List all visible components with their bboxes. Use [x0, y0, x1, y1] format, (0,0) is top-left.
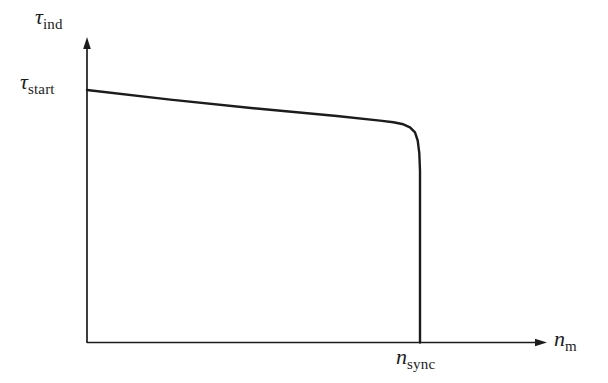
start-torque-subscript: start — [28, 82, 55, 97]
sync-speed-subscript: sync — [407, 357, 435, 372]
figure-canvas: τind τstart nsync nm — [0, 0, 608, 383]
y-axis-subscript: ind — [43, 17, 63, 32]
x-axis-symbol: n — [554, 326, 565, 351]
start-torque-symbol: τ — [20, 69, 28, 94]
x-axis-label: nm — [554, 328, 577, 350]
x-axis-arrow-icon — [535, 339, 547, 347]
y-axis-label: τind — [35, 6, 63, 28]
sync-speed-symbol: n — [396, 344, 407, 369]
sync-speed-label: nsync — [396, 346, 435, 368]
y-axis-arrow-icon — [83, 37, 91, 49]
start-torque-label: τstart — [20, 71, 55, 93]
y-axis-symbol: τ — [35, 4, 43, 29]
torque-speed-plot — [0, 0, 608, 383]
torque-curve — [87, 90, 420, 343]
x-axis-subscript: m — [565, 339, 577, 354]
